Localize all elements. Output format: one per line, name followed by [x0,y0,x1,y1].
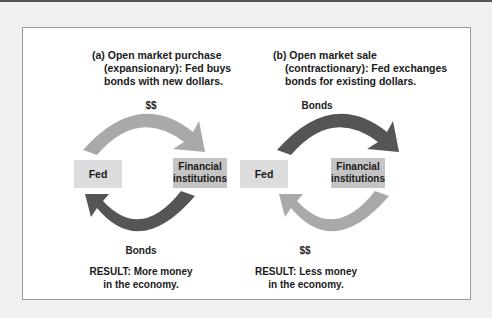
panel-b-financial-institutions-node: Financialinstitutions [331,158,385,188]
panel-b-caption: (b) Open market sale (contractionary): F… [273,49,447,88]
figure-frame: (a) Open market purchase (expansionary):… [22,27,471,300]
panel-open-market-purchase: (a) Open market purchase (expansionary):… [23,28,243,299]
panel-b-fed-node: Fed [240,160,288,188]
panel-a-bottom-flow-label: Bonds [111,245,171,256]
panel-a-result: RESULT: More money in the economy. [66,265,216,291]
panel-a-fed-node: Fed [74,160,122,188]
panel-open-market-sale: (b) Open market sale (contractionary): F… [247,28,467,299]
panel-a-top-flow-label: $$ [121,100,181,111]
panel-a-financial-institutions-node: Financialinstitutions [173,158,227,188]
panel-b-result: RESULT: Less money in the economy. [231,265,381,291]
panel-b-bottom-flow-label: $$ [275,245,335,256]
panel-b-top-flow-label: Bonds [287,100,347,111]
top-border [0,0,492,2]
panel-a-caption: (a) Open market purchase (expansionary):… [92,49,231,88]
